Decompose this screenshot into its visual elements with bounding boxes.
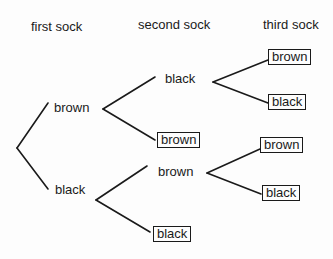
outcome-black-black: black — [153, 226, 191, 242]
branch-black-brown-black — [207, 173, 261, 194]
outcome-black-brown-black: black — [262, 185, 300, 201]
branch-black-brown — [96, 166, 147, 200]
outcome-brown-brown: brown — [157, 132, 200, 148]
header-third-sock: third sock — [263, 17, 319, 32]
branch-black-black — [96, 200, 150, 232]
header-first-sock: first sock — [31, 19, 82, 34]
branch-brown-brown — [103, 109, 155, 140]
node-brown-black: black — [165, 71, 195, 86]
node-first-black: black — [55, 182, 85, 197]
branch-root-black — [17, 148, 48, 189]
branch-brown-black-brown — [213, 60, 268, 82]
sock-probability-tree-diagram: first sock second sock third sock brown … — [0, 0, 333, 259]
node-first-brown: brown — [54, 100, 89, 115]
outcome-brown-black-brown: brown — [268, 49, 311, 65]
branch-brown-black-black — [213, 82, 268, 103]
tree-branches — [0, 0, 333, 259]
outcome-brown-black-black: black — [268, 94, 306, 110]
node-black-brown: brown — [158, 164, 193, 179]
header-second-sock: second sock — [138, 17, 210, 32]
outcome-black-brown-brown: brown — [260, 137, 303, 153]
branch-brown-black — [103, 77, 155, 109]
branch-root-brown — [17, 103, 48, 148]
branch-black-brown-brown — [207, 149, 260, 173]
